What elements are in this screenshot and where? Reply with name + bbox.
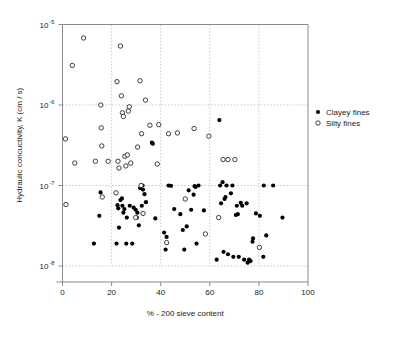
data-point-silty-fines: [106, 159, 110, 163]
data-point-clayey-fines: [182, 247, 186, 251]
x-tick-label: 40: [156, 288, 165, 297]
data-point-clayey-fines: [92, 241, 96, 245]
data-point-silty-fines: [93, 159, 97, 163]
data-point-silty-fines: [203, 232, 207, 236]
data-point-clayey-fines: [220, 180, 224, 184]
data-point-clayey-fines: [215, 258, 219, 262]
y-tick-label: 10: [40, 21, 49, 30]
data-point-clayey-fines: [153, 216, 157, 220]
data-point-clayey-fines: [224, 183, 228, 187]
legend-entry-label: Clayey fines: [326, 108, 370, 117]
x-tick-label: 0: [60, 288, 65, 297]
legend-marker-open-circle-icon: [316, 121, 320, 125]
data-point-clayey-fines: [245, 201, 249, 205]
data-point-silty-fines: [164, 240, 168, 244]
data-point-silty-fines: [155, 162, 159, 166]
chart-canvas: 02040608010010-510-610-710-8 Clayey fine…: [0, 0, 408, 348]
data-point-clayey-fines: [124, 241, 128, 245]
data-point-clayey-fines: [98, 190, 102, 194]
data-point-clayey-fines: [114, 241, 118, 245]
data-point-clayey-fines: [181, 228, 185, 232]
data-point-silty-fines: [63, 137, 67, 141]
data-point-clayey-fines: [217, 118, 221, 122]
data-point-silty-fines: [183, 197, 187, 201]
data-point-silty-fines: [143, 98, 147, 102]
y-axis-title: Hydraulic concuctivity, K (cm / s): [15, 87, 24, 202]
data-point-silty-fines: [119, 94, 123, 98]
data-point-clayey-fines: [121, 211, 125, 215]
data-point-silty-fines: [114, 191, 118, 195]
data-point-clayey-fines: [116, 206, 120, 210]
data-point-silty-fines: [139, 132, 143, 136]
data-point-clayey-fines: [169, 184, 173, 188]
data-point-clayey-fines: [164, 235, 168, 239]
data-point-clayey-fines: [137, 223, 141, 227]
data-point-silty-fines: [207, 134, 211, 138]
data-point-silty-fines: [129, 161, 133, 165]
data-point-clayey-fines: [235, 204, 239, 208]
data-point-clayey-fines: [242, 258, 246, 262]
data-point-clayey-fines: [120, 196, 124, 200]
data-point-silty-fines: [257, 245, 261, 249]
data-point-silty-fines: [157, 122, 161, 126]
x-tick-label: 100: [301, 288, 315, 297]
data-point-clayey-fines: [280, 215, 284, 219]
data-point-clayey-fines: [144, 200, 148, 204]
data-point-silty-fines: [233, 157, 237, 161]
data-point-clayey-fines: [237, 255, 241, 259]
data-point-silty-fines: [70, 63, 74, 67]
data-point-clayey-fines: [128, 204, 132, 208]
data-point-silty-fines: [117, 166, 121, 170]
data-point-clayey-fines: [264, 233, 268, 237]
data-point-silty-fines: [99, 103, 103, 107]
data-point-silty-fines: [192, 126, 196, 130]
data-point-clayey-fines: [189, 208, 193, 212]
data-point-clayey-fines: [229, 191, 233, 195]
data-point-clayey-fines: [219, 201, 223, 205]
data-point-clayey-fines: [196, 183, 200, 187]
data-point-clayey-fines: [223, 195, 227, 199]
x-tick-label: 20: [107, 288, 116, 297]
data-point-clayey-fines: [151, 142, 155, 146]
data-point-clayey-fines: [97, 214, 101, 218]
data-point-clayey-fines: [192, 193, 196, 197]
data-point-silty-fines: [175, 131, 179, 135]
data-point-silty-fines: [226, 157, 230, 161]
x-axis-title: % - 200 sieve content: [147, 309, 225, 318]
data-point-clayey-fines: [262, 183, 266, 187]
data-point-clayey-fines: [172, 207, 176, 211]
data-point-clayey-fines: [254, 211, 258, 215]
y-tick-label: 10: [40, 262, 49, 271]
data-point-clayey-fines: [221, 250, 225, 254]
y-tick-label-exponent: -5: [50, 19, 55, 25]
data-point-clayey-fines: [142, 192, 146, 196]
data-point-silty-fines: [133, 215, 137, 219]
data-point-silty-fines: [100, 144, 104, 148]
data-point-silty-fines: [127, 105, 131, 109]
x-tick-label: 80: [254, 288, 263, 297]
data-point-clayey-fines: [261, 255, 265, 259]
data-point-clayey-fines: [240, 204, 244, 208]
data-point-silty-fines: [135, 145, 139, 149]
legend-entry-label: Silty fines: [326, 119, 360, 128]
data-point-silty-fines: [115, 79, 119, 83]
data-point-clayey-fines: [164, 247, 168, 251]
data-point-clayey-fines: [230, 183, 234, 187]
data-point-silty-fines: [216, 215, 220, 219]
data-point-clayey-fines: [135, 211, 139, 215]
x-tick-label: 60: [205, 288, 214, 297]
y-tick-label: 10: [40, 182, 49, 191]
data-point-clayey-fines: [194, 241, 198, 245]
data-point-silty-fines: [73, 161, 77, 165]
data-point-silty-fines: [148, 123, 152, 127]
data-point-clayey-fines: [231, 255, 235, 259]
data-point-clayey-fines: [202, 208, 206, 212]
data-point-clayey-fines: [251, 236, 255, 240]
y-tick-label: 10: [40, 101, 49, 110]
data-point-clayey-fines: [185, 224, 189, 228]
y-tick-label-exponent: -8: [50, 260, 55, 266]
data-point-clayey-fines: [258, 214, 262, 218]
data-point-clayey-fines: [130, 241, 134, 245]
data-point-silty-fines: [99, 126, 103, 130]
data-point-clayey-fines: [248, 259, 252, 263]
